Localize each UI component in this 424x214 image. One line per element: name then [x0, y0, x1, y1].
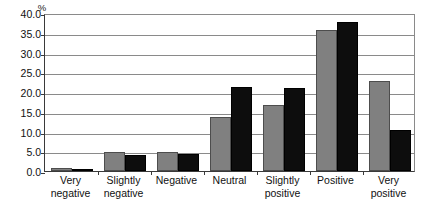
bar-group	[51, 15, 93, 171]
y-axis-tickmark	[41, 134, 45, 135]
y-axis-tick-label: 15.0	[0, 107, 41, 119]
y-axis-tickmark	[41, 55, 45, 56]
y-axis-tick-label: 5.0	[0, 146, 41, 158]
x-axis-category-label-line: negative	[97, 187, 150, 200]
bar-group	[263, 15, 305, 171]
y-axis-tickmark	[41, 35, 45, 36]
x-axis-category-label-line: positive	[362, 187, 415, 200]
y-axis-tick-label: 20.0	[0, 87, 41, 99]
bar-series-a[interactable]	[157, 152, 178, 171]
bar-series-a[interactable]	[316, 30, 337, 171]
y-axis-tick-labels: 40.035.030.025.020.015.010.05.00.0	[0, 14, 41, 172]
y-axis-tick-label: 40.0	[0, 8, 41, 20]
y-axis-tickmark	[41, 94, 45, 95]
x-axis-category-label-line: negative	[44, 187, 97, 200]
x-axis-category-label-line: Neutral	[203, 174, 256, 187]
x-axis-category-label-line: Slightly	[97, 174, 150, 187]
x-axis-category-label-line: positive	[256, 187, 309, 200]
y-axis-tick-label: 25.0	[0, 67, 41, 79]
y-axis-tick-label: 30.0	[0, 48, 41, 60]
x-axis-category-label: Neutral	[203, 174, 256, 187]
x-axis-category-labels: VerynegativeSlightlynegativeNegativeNeut…	[44, 174, 415, 214]
bars-layer	[45, 15, 414, 171]
bar-group	[157, 15, 199, 171]
bar-series-b[interactable]	[178, 154, 199, 171]
x-axis-category-label-line: Negative	[150, 174, 203, 187]
x-axis-category-label-line: Very	[362, 174, 415, 187]
bar-group	[210, 15, 252, 171]
y-axis-tickmark	[41, 153, 45, 154]
bar-group	[316, 15, 358, 171]
y-axis-tickmark	[41, 114, 45, 115]
y-axis-tickmark	[41, 15, 45, 16]
y-axis-tickmark	[41, 74, 45, 75]
bar-series-a[interactable]	[51, 168, 72, 171]
x-axis-category-label: Slightlypositive	[256, 174, 309, 200]
bar-series-a[interactable]	[263, 105, 284, 171]
bar-series-b[interactable]	[72, 169, 93, 171]
x-axis-category-label-line: Slightly	[256, 174, 309, 187]
x-axis-category-label: Verypositive	[362, 174, 415, 200]
bar-series-a[interactable]	[369, 81, 390, 171]
x-axis-category-label: Verynegative	[44, 174, 97, 200]
y-axis-tick-label: 0.0	[0, 166, 41, 178]
bar-series-a[interactable]	[210, 117, 231, 172]
bar-series-b[interactable]	[337, 22, 358, 171]
plot-area	[44, 14, 415, 172]
bar-series-b[interactable]	[125, 155, 146, 171]
y-axis-tick-label: 35.0	[0, 28, 41, 40]
bar-series-a[interactable]	[104, 152, 125, 171]
x-axis-category-label: Slightlynegative	[97, 174, 150, 200]
bar-group	[104, 15, 146, 171]
x-axis-category-label-line: Very	[44, 174, 97, 187]
x-axis-category-label: Negative	[150, 174, 203, 187]
bar-series-b[interactable]	[231, 87, 252, 171]
bar-series-b[interactable]	[390, 130, 411, 171]
bar-group	[369, 15, 411, 171]
bar-series-b[interactable]	[284, 88, 305, 171]
x-axis-category-label-line: Positive	[309, 174, 362, 187]
bar-chart: % 40.035.030.025.020.015.010.05.00.0 Ver…	[0, 0, 424, 214]
x-axis-category-label: Positive	[309, 174, 362, 187]
y-axis-tick-label: 10.0	[0, 127, 41, 139]
